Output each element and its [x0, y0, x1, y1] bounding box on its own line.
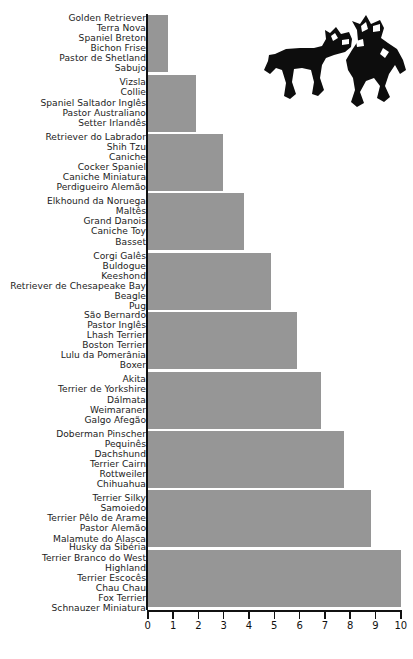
x-axis-tick-label: 10 [390, 620, 412, 631]
bar [148, 550, 401, 607]
bar-row: Corgi GalêsBuldogueKeeshondRetriever de … [0, 252, 413, 311]
bar-row-labels: Doberman PinscherPequinêsDachshundTerrie… [0, 429, 146, 490]
bar-row-labels: Retriever do LabradorShih TzuCanicheCock… [0, 132, 146, 193]
x-axis-tick-label: 0 [137, 620, 159, 631]
category-label: Terrier Pêlo de Arame [0, 513, 146, 523]
category-label: Pastor Alemão [0, 523, 146, 533]
category-label: Corgi Galês [0, 251, 146, 261]
x-axis-tick [223, 612, 225, 619]
category-label: Keeshond [0, 271, 146, 281]
x-axis-tick-label: 5 [263, 620, 285, 631]
category-label: Weimaraner [0, 405, 146, 415]
category-label: Maltês [0, 206, 146, 216]
bar-row: VizslaCollieSpaniel Saltador InglêsPasto… [0, 73, 413, 132]
x-axis-tick-label: 4 [238, 620, 260, 631]
bar [148, 134, 223, 191]
x-axis-tick [147, 612, 149, 619]
category-label: Retriever do Labrador [0, 132, 146, 142]
category-label: Spaniel Saltador Inglês [0, 98, 146, 108]
bar-row: Terrier SilkySamoiedoTerrier Pêlo de Ara… [0, 489, 413, 548]
bar-row-labels: VizslaCollieSpaniel Saltador InglêsPasto… [0, 77, 146, 127]
x-axis-tick-label: 9 [365, 620, 387, 631]
x-axis-tick [349, 612, 351, 619]
category-label: Doberman Pinscher [0, 429, 146, 439]
x-axis-tick [172, 612, 174, 619]
category-label: Caniche [0, 152, 146, 162]
bar-row-labels: Golden RetrieverTerra NovaSpaniel Breton… [0, 13, 146, 74]
bar-row-labels: AkitaTerrier de YorkshireDálmataWeimaran… [0, 374, 146, 424]
bar-row: Golden RetrieverTerra NovaSpaniel Breton… [0, 14, 413, 73]
category-label: Fox Terrier [0, 593, 146, 603]
category-label: Boxer [0, 360, 146, 370]
x-axis-tick [324, 612, 326, 619]
category-label: São Bernardo [0, 310, 146, 320]
category-label: Grand Danois [0, 216, 146, 226]
category-label: Terrier Silky [0, 493, 146, 503]
x-axis-tick-label: 7 [314, 620, 336, 631]
bar-chart: Golden RetrieverTerra NovaSpaniel Breton… [0, 0, 413, 659]
x-axis-tick-label: 6 [289, 620, 311, 631]
category-label: Terrier de Yorkshire [0, 384, 146, 394]
plot-area: Golden RetrieverTerra NovaSpaniel Breton… [0, 14, 413, 608]
bar-row-labels: Husky da SibériaTerrier Branco do WestHi… [0, 542, 146, 613]
bar-row: Doberman PinscherPequinêsDachshundTerrie… [0, 430, 413, 489]
x-axis-tick-label: 3 [213, 620, 235, 631]
category-label: Pastor de Shetland [0, 53, 146, 63]
category-label: Spaniel Breton [0, 33, 146, 43]
category-label: Highland [0, 563, 146, 573]
bar [148, 253, 271, 310]
bar [148, 372, 321, 429]
bar-row-labels: Corgi GalêsBuldogueKeeshondRetriever de … [0, 251, 146, 312]
bar [148, 15, 168, 72]
bar [148, 431, 344, 488]
category-label: Retriever de Chesapeake Bay [0, 281, 146, 291]
bar-row: AkitaTerrier de YorkshireDálmataWeimaran… [0, 370, 413, 429]
category-label: Galgo Afegão [0, 415, 146, 425]
category-label: Terrier Branco do West [0, 553, 146, 563]
category-label: Beagle [0, 291, 146, 301]
category-label: Samoiedo [0, 503, 146, 513]
category-label: Pastor Australiano [0, 108, 146, 118]
category-label: Dachshund [0, 449, 146, 459]
x-axis-tick [375, 612, 377, 619]
category-label: Terra Nova [0, 23, 146, 33]
category-label: Buldogue [0, 261, 146, 271]
x-axis-tick-label: 1 [162, 620, 184, 631]
x-axis-tick [299, 612, 301, 619]
bar-row: Elkhound da NoruegaMaltêsGrand DanoisCan… [0, 192, 413, 251]
x-axis-tick [198, 612, 200, 619]
x-axis-tick-label: 2 [187, 620, 209, 631]
category-label: Bichon Frise [0, 43, 146, 53]
bar-row-labels: São BernardoPastor InglêsLhash TerrierBo… [0, 310, 146, 371]
category-label: Vizsla [0, 77, 146, 87]
category-label: Shih Tzu [0, 142, 146, 152]
category-label: Cocker Spaniel [0, 162, 146, 172]
category-label: Chau Chau [0, 583, 146, 593]
x-axis-tick [248, 612, 250, 619]
x-axis-tick [400, 612, 402, 619]
category-label: Chihuahua [0, 479, 146, 489]
category-label: Terrier Cairn [0, 459, 146, 469]
category-label: Rottweiler [0, 469, 146, 479]
bar-row: São BernardoPastor InglêsLhash TerrierBo… [0, 311, 413, 370]
category-label: Collie [0, 87, 146, 97]
category-label: Caniche Miniatura [0, 172, 146, 182]
category-label: Husky da Sibéria [0, 542, 146, 552]
bar [148, 312, 297, 369]
category-label: Basset [0, 237, 146, 247]
category-label: Lulu da Pomerânia [0, 350, 146, 360]
bar [148, 75, 196, 132]
category-label: Pastor Inglês [0, 320, 146, 330]
category-label: Akita [0, 374, 146, 384]
category-label: Pequinês [0, 439, 146, 449]
category-label: Terrier Escocês [0, 573, 146, 583]
bar [148, 490, 371, 547]
category-label: Golden Retriever [0, 13, 146, 23]
bar-row: Husky da SibériaTerrier Branco do WestHi… [0, 549, 413, 608]
category-label: Caniche Toy [0, 226, 146, 236]
category-label: Boston Terrier [0, 340, 146, 350]
bar [148, 193, 244, 250]
category-label: Elkhound da Noruega [0, 196, 146, 206]
category-label: Perdigueiro Alemão [0, 182, 146, 192]
bar-row: Retriever do LabradorShih TzuCanicheCock… [0, 133, 413, 192]
